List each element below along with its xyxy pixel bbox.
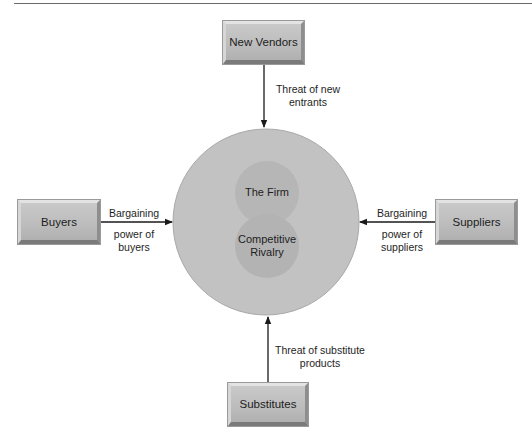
- buyers-caption-top: Bargaining: [104, 207, 164, 220]
- suppliers-label: Suppliers: [453, 216, 501, 228]
- suppliers-box: Suppliers: [436, 200, 517, 244]
- buyers-box: Buyers: [18, 200, 100, 244]
- suppliers-caption-top: Bargaining: [372, 207, 432, 220]
- new-entrants-caption: Threat of new entrants: [270, 83, 346, 109]
- substitutes-caption: Threat of substitute products: [272, 344, 368, 370]
- buyers-label: Buyers: [41, 216, 77, 228]
- substitutes-label: Substitutes: [240, 398, 297, 410]
- buyers-caption-bottom: power of buyers: [104, 228, 164, 254]
- firm-label: The Firm: [227, 186, 307, 199]
- new-vendors-label: New Vendors: [229, 36, 297, 48]
- rivalry-label: Competitive Rivalry: [222, 233, 312, 259]
- suppliers-caption-bottom: power of suppliers: [372, 228, 432, 254]
- new-vendors-box: New Vendors: [223, 21, 304, 64]
- substitutes-box: Substitutes: [228, 383, 308, 426]
